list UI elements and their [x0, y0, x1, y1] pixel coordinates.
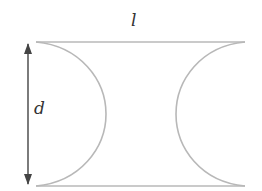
arrow-down-head-icon	[24, 174, 32, 185]
diameter-label: d	[34, 100, 45, 117]
left-convex-arc	[36, 42, 106, 186]
arrow-up-head-icon	[24, 43, 32, 54]
diameter-dimension-arrow	[24, 43, 32, 185]
right-concave-arc	[176, 42, 245, 186]
length-label: l	[131, 12, 136, 29]
